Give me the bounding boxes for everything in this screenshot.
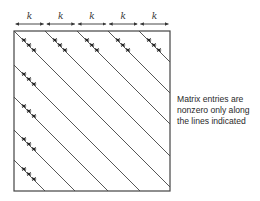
band-line (139, 31, 170, 62)
band-line (14, 31, 170, 187)
diagonal-band-lines (14, 31, 170, 191)
segment-label-k: k (27, 11, 32, 21)
caption-line-2: nonzero only along (177, 105, 259, 116)
caption-line-3: the lines indicated (177, 116, 259, 127)
segment-label-k: k (58, 11, 63, 21)
caption: Matrix entries are nonzero only along th… (177, 94, 259, 127)
band-line (14, 160, 45, 191)
caption-line-1: Matrix entries are (177, 94, 259, 105)
segment-label-k: k (120, 11, 125, 21)
segment-label-k: k (152, 11, 157, 21)
segment-label-k: k (89, 11, 94, 21)
segment-labels: kkkkk (27, 11, 157, 21)
